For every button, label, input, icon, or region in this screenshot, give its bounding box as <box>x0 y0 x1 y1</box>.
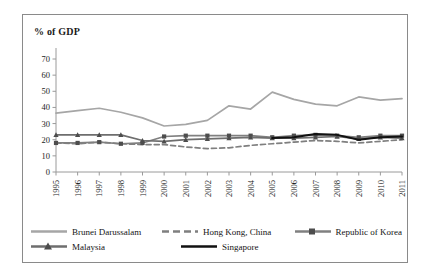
legend-item-republic-of-korea: Republic of Korea <box>294 224 402 239</box>
x-axis-tick-label: 1996 <box>73 180 83 197</box>
x-axis-tick-label: 2009 <box>354 180 364 197</box>
legend-row-2: Malaysia Singapore <box>30 239 402 254</box>
chart-figure: % of GDP 0102030405060701995199619971998… <box>0 0 429 280</box>
x-axis-tick-label: 2008 <box>332 180 342 197</box>
legend-label-malaysia: Malaysia <box>72 242 105 252</box>
legend-row-1: Brunei Darussalam Hong Kong, China Repub… <box>30 224 402 239</box>
x-axis-tick-label: 2010 <box>376 180 386 197</box>
x-axis-tick-label: 2002 <box>203 180 213 197</box>
x-axis-tick-label: 2000 <box>159 180 169 197</box>
y-axis-tick-label: 50 <box>42 86 51 96</box>
x-axis-tick-label: 2011 <box>397 180 407 197</box>
y-axis-tick-label: 10 <box>42 151 51 161</box>
x-axis-tick-label: 2007 <box>311 180 321 197</box>
x-axis-tick-label: 2006 <box>289 180 299 197</box>
legend-label-hong-kong: Hong Kong, China <box>203 227 271 237</box>
x-axis-tick-label: 1995 <box>51 180 61 197</box>
series-marker-square <box>119 142 123 146</box>
x-axis-tick-label: 1997 <box>94 180 104 197</box>
legend-label-singapore: Singapore <box>222 242 259 252</box>
legend-swatch-korea <box>294 226 332 237</box>
y-axis-tick-label: 30 <box>42 119 51 129</box>
x-axis-tick-label: 2003 <box>224 180 234 197</box>
y-axis-tick-label: 40 <box>42 102 51 112</box>
y-axis-tick-label: 70 <box>42 54 51 64</box>
series-marker-square <box>76 141 80 145</box>
series-marker-square <box>54 141 58 145</box>
legend-swatch-brunei <box>30 226 68 237</box>
chart-legend: Brunei Darussalam Hong Kong, China Repub… <box>30 224 402 254</box>
series-marker-square <box>162 134 166 138</box>
x-axis-tick-label: 1999 <box>138 180 148 197</box>
x-axis-tick-label: 2004 <box>246 179 256 197</box>
legend-swatch-hong-kong <box>161 226 199 237</box>
legend-label-korea: Republic of Korea <box>336 227 402 237</box>
y-axis-tick-label: 0 <box>46 167 50 177</box>
legend-item-brunei-darussalam: Brunei Darussalam <box>30 224 161 239</box>
legend-swatch-singapore <box>180 241 218 252</box>
series-marker-square <box>97 140 101 144</box>
x-axis-tick-label: 1998 <box>116 180 126 197</box>
legend-item-hong-kong-china: Hong Kong, China <box>161 224 294 239</box>
legend-swatch-malaysia <box>30 241 68 252</box>
legend-label-brunei: Brunei Darussalam <box>72 227 141 237</box>
x-axis-tick-label: 2001 <box>181 180 191 197</box>
y-axis-tick-label: 60 <box>42 70 51 80</box>
legend-item-malaysia: Malaysia <box>30 239 180 254</box>
legend-item-singapore: Singapore <box>180 239 332 254</box>
x-axis-tick-label: 2005 <box>267 180 277 197</box>
series-line-brunei-darussalam <box>56 92 402 126</box>
series-line-hong-kong-china <box>56 140 402 149</box>
y-axis-tick-label: 20 <box>42 135 51 145</box>
